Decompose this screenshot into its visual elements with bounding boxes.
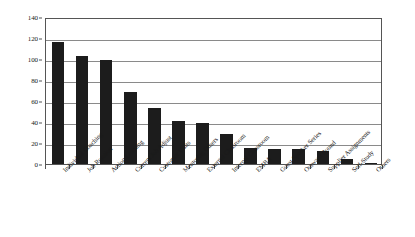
x-tick-label: Others (375, 169, 380, 174)
y-tick-label: 120 (28, 36, 38, 43)
y-tick-label: 100 (28, 57, 38, 64)
x-tick-label: Current Job Adjust (134, 169, 139, 174)
y-tick-label: 0 (35, 162, 38, 169)
x-tick-label: Supplier Assignments (327, 169, 332, 174)
x-tick-label: Job Rotation (86, 169, 91, 174)
x-axis-labels: Individual CoachingJob RotationAction Le… (45, 169, 382, 237)
y-tick-mark (39, 18, 42, 19)
y-tick-label: 140 (28, 15, 38, 22)
bar (52, 42, 65, 164)
x-tick-label: Self-Study (351, 169, 356, 174)
y-tick-mark (39, 60, 42, 61)
bar-chart: 020406080100120140 Individual CoachingJo… (0, 0, 415, 237)
y-tick-mark (39, 102, 42, 103)
y-tick-label: 60 (31, 99, 38, 106)
x-tick-label: Guest Speaker Series (279, 169, 284, 174)
bar (365, 163, 378, 164)
x-tick-label: Mentoring Others (182, 169, 187, 174)
y-axis: 020406080100120140 (0, 18, 42, 165)
y-tick-mark (39, 81, 42, 82)
y-tick-mark (39, 123, 42, 124)
x-tick-label: EMBA (255, 169, 260, 174)
y-tick-mark (39, 144, 42, 145)
x-tick-label: External Classroom (206, 169, 211, 174)
x-tick-label: Outward Bound (303, 169, 308, 174)
y-tick-label: 40 (31, 120, 38, 127)
y-tick-label: 80 (31, 78, 38, 85)
x-tick-label: Customer Visits (158, 169, 163, 174)
y-tick-label: 20 (31, 141, 38, 148)
x-tick-label: Internal Classroom (231, 169, 236, 174)
y-tick-mark (39, 165, 42, 166)
y-tick-mark (39, 39, 42, 40)
x-tick-label: Action Learning (110, 169, 115, 174)
x-tick-label: Individual Coaching (62, 169, 67, 174)
